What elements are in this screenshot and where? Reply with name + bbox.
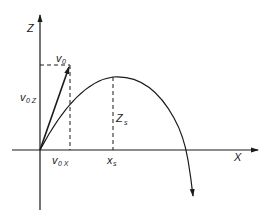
- svg-text:s: s: [124, 119, 128, 126]
- z-axis-label: Z: [26, 22, 35, 34]
- svg-text:x: x: [106, 154, 113, 166]
- x-axis-label: X: [233, 151, 242, 163]
- svg-text:0: 0: [62, 58, 66, 65]
- v0-label: v 0: [56, 52, 66, 65]
- svg-text:Z: Z: [115, 112, 124, 124]
- v0z-label: v 0 Z: [20, 91, 37, 104]
- svg-text:s: s: [113, 160, 117, 167]
- svg-text:0 Z: 0 Z: [26, 97, 37, 104]
- svg-text:0 X: 0 X: [58, 160, 69, 167]
- xs-label: x s: [106, 154, 117, 167]
- trajectory-curve: [40, 77, 193, 196]
- v0x-label: v 0 X: [52, 154, 69, 167]
- v0-vector-arrow: [40, 67, 69, 150]
- zs-label: Z s: [115, 112, 128, 126]
- trajectory-diagram: Z X v 0 v 0 Z v 0 X Z s x s: [0, 0, 264, 224]
